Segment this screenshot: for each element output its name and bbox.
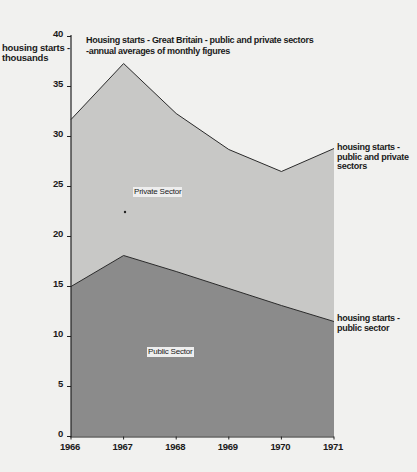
y-axis-label-line2: thousands bbox=[2, 53, 70, 63]
annotation-line: public sector bbox=[337, 324, 400, 334]
chart-title-line1: Housing starts - Great Britain - public … bbox=[86, 35, 313, 46]
y-tick-label: 10 bbox=[53, 328, 63, 339]
x-tick-label: 1968 bbox=[165, 441, 185, 452]
x-tick-label: 1967 bbox=[113, 441, 133, 452]
chart-title: Housing starts - Great Britain - public … bbox=[86, 35, 313, 57]
public-series-annotation: housing starts - public sector bbox=[337, 314, 400, 333]
annotation-line: sectors bbox=[337, 162, 409, 172]
y-tick-label: 0 bbox=[58, 428, 63, 439]
x-tick-label: 1971 bbox=[323, 441, 343, 452]
y-tick-label: 20 bbox=[53, 228, 63, 239]
y-axis-label: housing starts - thousands bbox=[2, 43, 70, 63]
y-tick-label: 40 bbox=[53, 28, 63, 39]
y-tick-label: 25 bbox=[53, 178, 63, 189]
y-tick-label: 15 bbox=[53, 278, 63, 289]
y-tick-label: 30 bbox=[53, 128, 63, 139]
private-sector-label: Private Sector bbox=[133, 187, 182, 197]
chart-title-line2: -annual averages of monthly figures bbox=[86, 46, 313, 57]
stray-mark bbox=[124, 211, 126, 213]
x-tick-label: 1970 bbox=[270, 441, 290, 452]
total-series-annotation: housing starts - public and private sect… bbox=[337, 143, 409, 172]
x-tick-label: 1966 bbox=[60, 441, 80, 452]
y-tick-label: 5 bbox=[58, 378, 63, 389]
public-sector-label: Public Sector bbox=[147, 347, 194, 357]
y-tick-label: 35 bbox=[53, 78, 63, 89]
x-tick-label: 1969 bbox=[218, 441, 238, 452]
